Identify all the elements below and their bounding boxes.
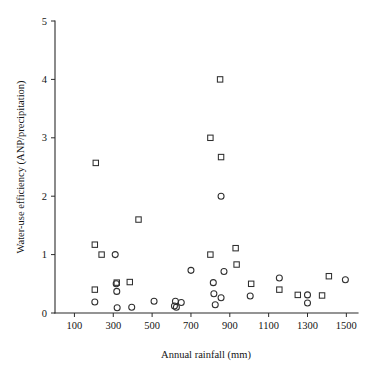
plot-canvas: 012345 100300500700900110013001500 Annua… [0,0,379,373]
data-point-square [136,217,141,222]
x-tick-label: 1100 [258,320,279,331]
data-point-square [234,262,239,267]
y-tick-label: 5 [42,16,47,27]
y-tick-label: 0 [42,308,47,319]
data-point-circle [211,291,217,297]
data-point-square [218,154,223,159]
data-point-circle [173,304,179,310]
data-point-circle [218,295,224,301]
data-series-circles [92,193,349,311]
data-point-square [326,274,331,279]
x-tick-label: 500 [144,320,160,331]
x-tick-label: 100 [67,320,83,331]
data-point-square [92,287,97,292]
data-point-circle [247,293,253,299]
data-point-circle [305,292,311,298]
data-point-square [208,135,213,140]
data-point-circle [114,305,120,311]
data-point-circle [92,299,98,305]
data-point-square [92,242,97,247]
data-point-circle [221,269,227,275]
y-axis-ticks: 012345 [42,16,55,319]
y-tick-label: 4 [42,74,48,85]
data-point-circle [210,280,216,286]
data-point-square [277,287,282,292]
data-point-circle [276,275,282,281]
data-point-circle [188,267,194,273]
data-point-circle [112,252,118,258]
y-axis-title: Water-use efficiency (ANP/precipitation) [15,80,27,254]
x-axis-ticks: 100300500700900110013001500 [67,313,357,331]
data-point-circle [212,302,218,308]
data-point-circle [305,300,311,306]
data-point-circle [129,304,135,310]
y-tick-label: 3 [42,132,47,143]
data-point-square [233,245,238,250]
data-point-square [127,279,132,284]
data-point-circle [178,299,184,305]
data-point-circle [342,277,348,283]
x-tick-label: 900 [222,320,238,331]
x-tick-label: 700 [183,320,199,331]
data-point-square [217,77,222,82]
x-axis-title: Annual rainfall (mm) [161,349,251,361]
data-point-square [295,292,300,297]
data-point-square [208,252,213,257]
x-tick-label: 1500 [336,320,357,331]
data-point-circle [114,288,120,294]
axes-group [55,21,358,313]
data-point-circle [218,193,224,199]
x-tick-label: 300 [105,320,121,331]
x-tick-label: 1300 [297,320,318,331]
data-series-squares [92,77,331,298]
data-point-square [99,252,104,257]
y-tick-label: 2 [42,191,47,202]
data-point-circle [151,298,157,304]
y-tick-label: 1 [42,249,47,260]
scatter-plot-figure: 012345 100300500700900110013001500 Annua… [0,0,379,373]
data-point-square [248,281,253,286]
data-point-square [319,293,324,298]
data-point-square [93,160,98,165]
